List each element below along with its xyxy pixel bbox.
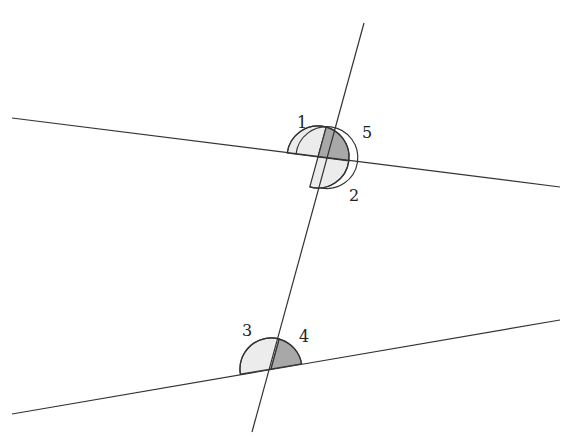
lower-line bbox=[12, 320, 560, 414]
upper-line bbox=[12, 118, 560, 187]
angle-label-3: 3 bbox=[242, 321, 252, 340]
angle-diagram: 1 5 2 3 4 bbox=[0, 0, 566, 439]
angle-label-1: 1 bbox=[297, 113, 307, 132]
angle-label-4: 4 bbox=[299, 327, 309, 346]
transversal-line bbox=[252, 23, 364, 432]
angle-label-2: 2 bbox=[349, 186, 359, 205]
angle-label-5: 5 bbox=[362, 123, 372, 142]
